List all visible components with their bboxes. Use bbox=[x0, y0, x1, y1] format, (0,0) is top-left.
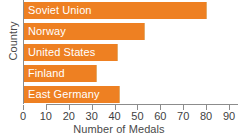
x-tick-label: 90 bbox=[216, 110, 238, 122]
bar-label-finland: Finland bbox=[28, 65, 65, 82]
bar-label-united-states: United States bbox=[28, 44, 95, 61]
bar-label-east-germany: East Germany bbox=[28, 86, 100, 103]
bar-chart: Country Soviet UnionNorwayUnited StatesF… bbox=[0, 0, 238, 139]
plot-area: Soviet UnionNorwayUnited StatesFinlandEa… bbox=[23, 0, 232, 104]
x-axis-title: Number of Medals bbox=[0, 123, 238, 135]
bar-label-norway: Norway bbox=[28, 23, 66, 40]
bar-label-soviet-union: Soviet Union bbox=[28, 2, 92, 19]
y-axis-title: Country bbox=[7, 11, 19, 71]
x-axis-line bbox=[46, 104, 238, 105]
